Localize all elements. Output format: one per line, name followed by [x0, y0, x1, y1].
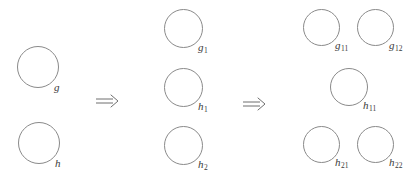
label-base: g — [335, 39, 341, 51]
node-g12[interactable]: g12 — [357, 9, 394, 46]
label-base: g — [389, 39, 395, 51]
stage-3: g11g12h11h21h22 — [0, 0, 414, 180]
node-h21[interactable]: h21 — [303, 126, 340, 163]
node-h11[interactable]: h11 — [330, 68, 368, 106]
double-right-arrow-icon — [95, 93, 121, 109]
label-subscript: 11 — [369, 104, 376, 113]
node-label-h11: h11 — [363, 100, 376, 111]
node-label-h21: h21 — [335, 157, 348, 168]
node-label-g12: g12 — [389, 40, 402, 51]
label-subscript: 22 — [395, 161, 403, 170]
label-subscript: 21 — [341, 161, 349, 170]
node-label-g11: g11 — [335, 40, 348, 51]
label-subscript: 11 — [341, 44, 348, 53]
math-diagram-canvas: ghg1h1h2g11g12h11h21h22 ⟹⟹ — [0, 0, 414, 180]
label-subscript: 12 — [395, 44, 403, 53]
label-base: h — [389, 156, 395, 168]
node-label-h22: h22 — [389, 157, 402, 168]
node-g11[interactable]: g11 — [303, 9, 340, 46]
label-base: h — [363, 99, 369, 111]
implies-arrow-1: ⟹ — [95, 93, 121, 109]
implies-arrow-2: ⟹ — [242, 96, 268, 112]
label-base: h — [335, 156, 341, 168]
node-h22[interactable]: h22 — [357, 126, 394, 163]
double-right-arrow-icon — [242, 96, 268, 112]
